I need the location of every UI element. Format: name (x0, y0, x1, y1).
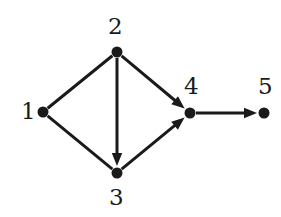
graph-arrowhead-2-to-3 (112, 153, 122, 166)
graph-edge-2-to-4 (122, 56, 181, 105)
graph-node-label-2: 2 (108, 15, 123, 38)
graph-node-label-3: 3 (109, 186, 124, 209)
graph-edge-1-to-3 (48, 116, 113, 169)
graph-arrowhead-4-to-5 (244, 108, 257, 118)
graph-edge-3-to-4 (122, 121, 181, 169)
graph-node-1[interactable] (38, 107, 49, 118)
graph-node-label-4: 4 (184, 75, 199, 98)
graph-node-label-1: 1 (21, 100, 36, 123)
graph-node-5[interactable] (259, 108, 270, 119)
graph-canvas (0, 0, 281, 217)
graph-node-2[interactable] (112, 47, 123, 58)
graph-node-label-5: 5 (258, 75, 273, 98)
graph-node-4[interactable] (185, 108, 196, 119)
graph-node-3[interactable] (112, 168, 123, 179)
directed-graph-figure: 12345 (0, 0, 281, 217)
graph-edge-1-to-2 (48, 56, 113, 108)
edge-layer (48, 56, 257, 169)
